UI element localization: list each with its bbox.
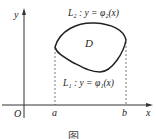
upper-curve-label: L₂ : y = φ₂(x) xyxy=(67,8,119,19)
y-axis-label: y xyxy=(13,9,19,20)
diagram-canvas: y x O a b D L₂ : y = φ₂(x) L₁ : y = φ₁(x… xyxy=(0,0,156,139)
origin-label: O xyxy=(14,108,21,119)
region-label: D xyxy=(84,37,93,49)
point-b-label: b xyxy=(122,107,127,118)
y-axis-arrow-icon xyxy=(22,8,26,15)
point-a-label: a xyxy=(52,107,57,118)
x-axis-label: x xyxy=(145,107,151,118)
lower-curve-label: L₁ : y = φ₁(x) xyxy=(62,78,114,89)
figure-caption: 图 xyxy=(68,131,79,139)
